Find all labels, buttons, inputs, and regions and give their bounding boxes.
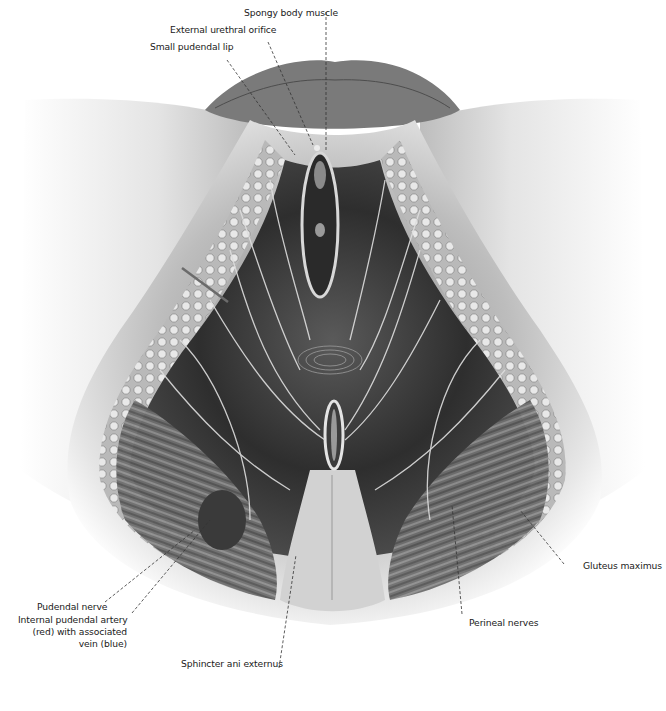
label-internal-pudendal-artery-line3: vein (blue): [18, 638, 127, 650]
label-small-pudendal-lip: Small pudendal lip: [150, 41, 233, 53]
external-urethral-orifice: [314, 145, 320, 151]
label-sphincter-ani-externus: Sphincter ani externus: [181, 658, 283, 670]
label-internal-pudendal-artery-line1: Internal pudendal artery: [18, 614, 127, 626]
label-internal-pudendal-artery: Internal pudendal artery (red) with asso…: [18, 614, 127, 650]
label-gluteus-maximus: Gluteus maximus: [583, 560, 662, 572]
label-perineal-nerves: Perineal nerves: [469, 617, 538, 629]
label-pudendal-nerve: Pudendal nerve: [37, 601, 107, 613]
pudendal-vessel-cluster: [198, 490, 246, 550]
pubic-region: [205, 60, 460, 128]
label-spongy-body-muscle: Spongy body muscle: [244, 7, 338, 19]
label-external-urethral-orifice: External urethral orifice: [170, 24, 276, 36]
anatomy-figure: Spongy body muscle External urethral ori…: [0, 0, 666, 711]
label-internal-pudendal-artery-line2: (red) with associated: [18, 626, 127, 638]
